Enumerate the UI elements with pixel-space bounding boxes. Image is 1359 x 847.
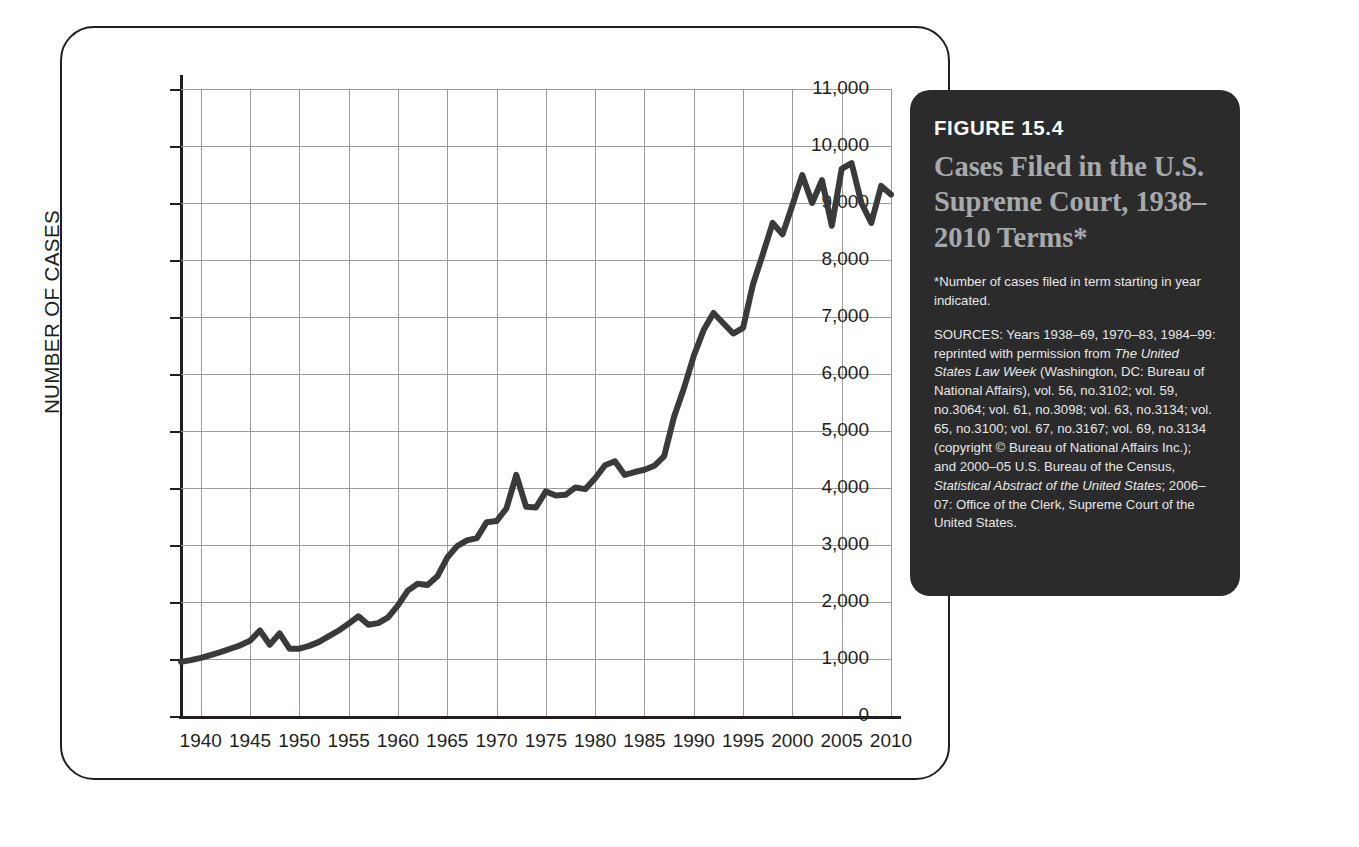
x-axis-tick-label: 1945 [229, 730, 271, 752]
x-axis-tick-label: 1950 [278, 730, 320, 752]
x-axis-tick-label: 2000 [771, 730, 813, 752]
x-axis-tick-label: 1970 [475, 730, 517, 752]
x-axis-tick-label: 2005 [821, 730, 863, 752]
y-axis-tick [170, 203, 181, 205]
x-axis-tick-label: 1965 [426, 730, 468, 752]
y-axis-tick [170, 602, 181, 604]
x-axis-tick-label: 2010 [870, 730, 912, 752]
figure-title: Cases Filed in the U.S. Supreme Court, 1… [934, 149, 1216, 255]
y-axis-tick [170, 146, 181, 148]
x-axis-tick-label: 1980 [574, 730, 616, 752]
figure-number: FIGURE 15.4 [934, 116, 1216, 140]
figure-note: *Number of cases filed in term starting … [934, 273, 1216, 311]
x-axis-tick-label: 1955 [327, 730, 369, 752]
y-axis-title: NUMBER OF CASES [40, 202, 64, 422]
sources-italic-statabstract: Statistical Abstract of the United State… [934, 478, 1161, 493]
y-axis-tick [170, 374, 181, 376]
y-axis-tick [170, 260, 181, 262]
y-axis-tick [170, 431, 181, 433]
x-axis-tick-label: 1990 [673, 730, 715, 752]
sources-middle: (Washington, DC: Bureau of National Affa… [934, 364, 1212, 473]
x-axis-tick-label: 1960 [377, 730, 419, 752]
y-axis-tick [170, 716, 181, 718]
y-axis-tick [170, 488, 181, 490]
y-axis-tick [170, 317, 181, 319]
chart-region: NUMBER OF CASES 01,0002,0003,0004,0005,0… [0, 0, 960, 847]
x-axis-tick-label: 1975 [525, 730, 567, 752]
x-axis-tick-label: 1985 [623, 730, 665, 752]
figure-sources: SOURCES: Years 1938–69, 1970–83, 1984–99… [934, 326, 1216, 534]
figure-caption-panel: FIGURE 15.4 Cases Filed in the U.S. Supr… [910, 90, 1240, 596]
x-axis-tick-label: 1940 [180, 730, 222, 752]
x-axis-tick-label: 1995 [722, 730, 764, 752]
y-axis-tick [170, 89, 181, 91]
y-axis-tick [170, 545, 181, 547]
series-line-cases-filed [181, 89, 893, 719]
plot-area: 01,0002,0003,0004,0005,0006,0007,0008,00… [181, 89, 891, 716]
